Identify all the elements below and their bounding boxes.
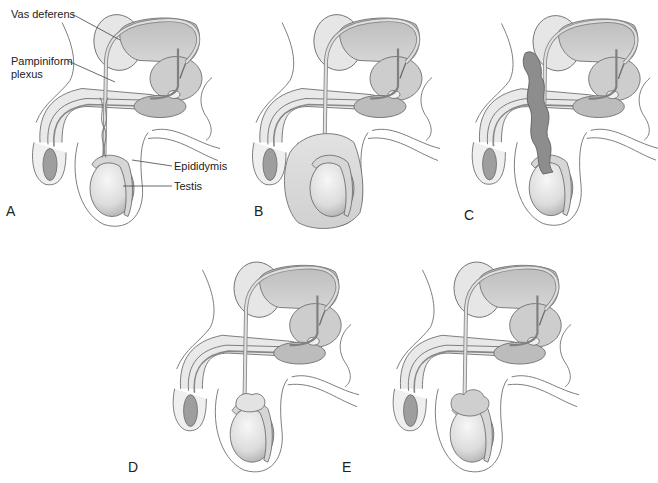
panel-d: D — [140, 250, 360, 483]
panel-letter-b: B — [254, 204, 263, 218]
panel-a-illustration — [0, 0, 220, 240]
panel-e: E — [360, 250, 580, 483]
epididymal-mass — [451, 390, 489, 416]
panel-a: Vas deferens Pampiniform plexus Epididym… — [0, 0, 220, 240]
panel-letter-d: D — [128, 460, 138, 474]
panel-e-illustration — [360, 250, 580, 483]
panel-b: B — [220, 0, 440, 240]
label-vas-deferens: Vas deferens — [11, 8, 75, 21]
panel-letter-c: C — [464, 208, 474, 222]
label-pampiniform-plexus: Pampiniform plexus — [11, 55, 73, 81]
panel-b-illustration — [220, 0, 440, 240]
panel-letter-e: E — [342, 460, 351, 474]
label-pampiniform-line1: Pampiniform — [11, 55, 73, 68]
panel-letter-a: A — [6, 204, 15, 218]
varicocele-veins — [523, 52, 553, 174]
label-testis: Testis — [174, 180, 202, 193]
label-pampiniform-line2: plexus — [11, 68, 73, 81]
panel-c-illustration — [440, 0, 658, 240]
panel-d-illustration — [140, 250, 360, 483]
panel-c: C — [440, 0, 658, 240]
spermatocele-cyst — [236, 394, 265, 412]
